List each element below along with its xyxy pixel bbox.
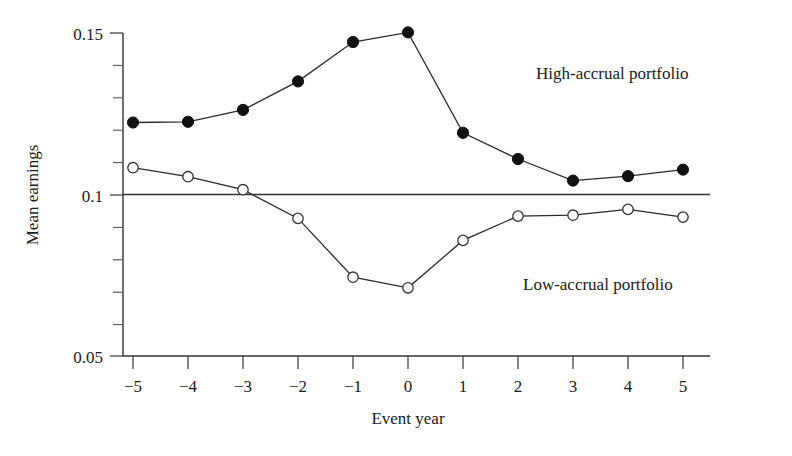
data-point [127,117,138,128]
x-tick-label-5: 0 [404,377,413,396]
x-tick-label-3: −2 [289,377,307,396]
data-point [238,185,248,195]
data-point [567,175,578,186]
chart-svg: 0.15 0.1 0.05 Mean earnings −5 −4 −3 −2 … [0,0,792,456]
data-point [183,172,193,182]
data-point [128,163,138,173]
x-tick-label-6: 1 [459,377,468,396]
data-point [678,212,688,222]
x-tick-label-2: −3 [234,377,252,396]
x-tick-label-10: 5 [679,377,688,396]
data-point [347,36,358,47]
data-point [293,213,303,223]
y-axis-title: Mean earnings [23,145,42,246]
data-point [402,27,413,38]
data-point [457,127,468,138]
data-point [348,272,358,282]
series-label-low-accrual: Low-accrual portfolio [523,275,673,294]
data-point [237,104,248,115]
data-point [512,153,523,164]
data-point [568,210,578,220]
x-tick-label-7: 2 [514,377,523,396]
x-axis-ticks [133,356,683,369]
x-tick-label-0: −5 [124,377,142,396]
data-point [622,171,633,182]
data-point [403,283,413,293]
x-tick-label-1: −4 [179,377,198,396]
series-low-accrual-line [133,168,683,288]
series-label-high-accrual: High-accrual portfolio [536,64,688,83]
x-tick-label-9: 4 [624,377,633,396]
x-tick-label-4: −1 [344,377,362,396]
data-point [458,235,468,245]
x-axis-title: Event year [371,409,444,428]
series-high-accrual-line [133,32,683,180]
series-high-accrual-markers [127,27,688,186]
data-point [182,116,193,127]
chart-figure: 0.15 0.1 0.05 Mean earnings −5 −4 −3 −2 … [0,0,792,456]
data-point [623,204,633,214]
data-point [292,76,303,87]
y-tick-label-0: 0.15 [73,25,103,44]
y-tick-label-1: 0.1 [82,187,103,206]
data-point [677,164,688,175]
y-axis-major-ticks [110,33,123,356]
x-tick-label-8: 3 [569,377,578,396]
data-point [513,211,523,221]
y-tick-label-2: 0.05 [73,348,103,367]
